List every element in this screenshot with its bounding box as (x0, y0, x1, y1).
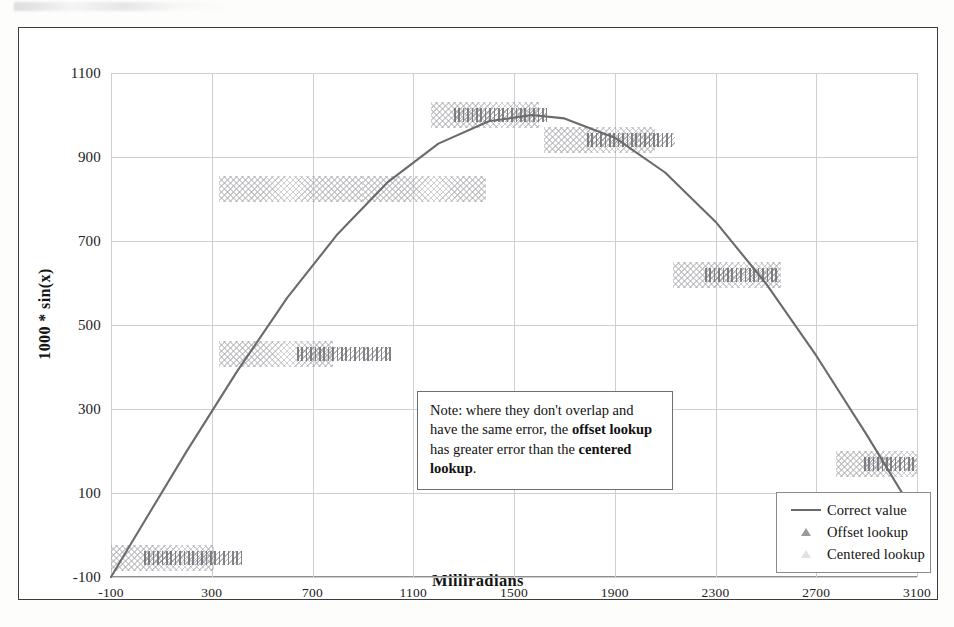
legend-label: Centered lookup (827, 546, 925, 563)
chart-frame: 1000 * sin(x) Milliradians 1100900700500… (18, 27, 938, 600)
note-text-middle: has greater error than the (430, 441, 579, 457)
y-tick-label: 100 (78, 485, 101, 502)
legend-item-correct-value: Correct value (785, 499, 922, 521)
x-tick-label: -100 (98, 585, 124, 601)
legend-label: Correct value (827, 502, 907, 519)
gridline-horizontal (111, 577, 917, 578)
x-tick-label: 700 (302, 585, 323, 601)
y-tick-label: 300 (78, 401, 101, 418)
y-tick-label: 500 (78, 317, 101, 334)
legend-item-centered-lookup: Centered lookup (785, 543, 922, 565)
x-tick-label: 3100 (903, 585, 931, 601)
note-text-suffix: . (473, 460, 477, 476)
triangle-dark-key-icon (785, 528, 827, 536)
line-key-icon (785, 509, 827, 511)
y-tick-label: 900 (78, 149, 101, 166)
y-tick-label: 1100 (71, 65, 101, 82)
x-tick-label: 2300 (702, 585, 730, 601)
x-tick-label: 1100 (400, 585, 427, 601)
y-tick-label: -100 (73, 569, 101, 586)
legend-label: Offset lookup (827, 524, 908, 541)
x-tick-label: 300 (201, 585, 222, 601)
x-tick-label: 2700 (802, 585, 830, 601)
triangle-light-key-icon (785, 550, 827, 558)
note-text-bold-offset: offset lookup (572, 421, 652, 437)
y-axis-title: 1000 * sin(x) (36, 268, 54, 359)
chart-legend: Correct value Offset lookup Centered loo… (776, 492, 931, 573)
x-tick-label: 1900 (601, 585, 629, 601)
note-annotation: Note: where they don't overlap and have … (417, 391, 673, 490)
legend-item-offset-lookup: Offset lookup (785, 521, 922, 543)
y-tick-label: 700 (78, 233, 101, 250)
x-tick-label: 1500 (500, 585, 528, 601)
scan-artifact-smudge (14, 2, 224, 11)
scanned-page: 1000 * sin(x) Milliradians 1100900700500… (0, 0, 954, 627)
